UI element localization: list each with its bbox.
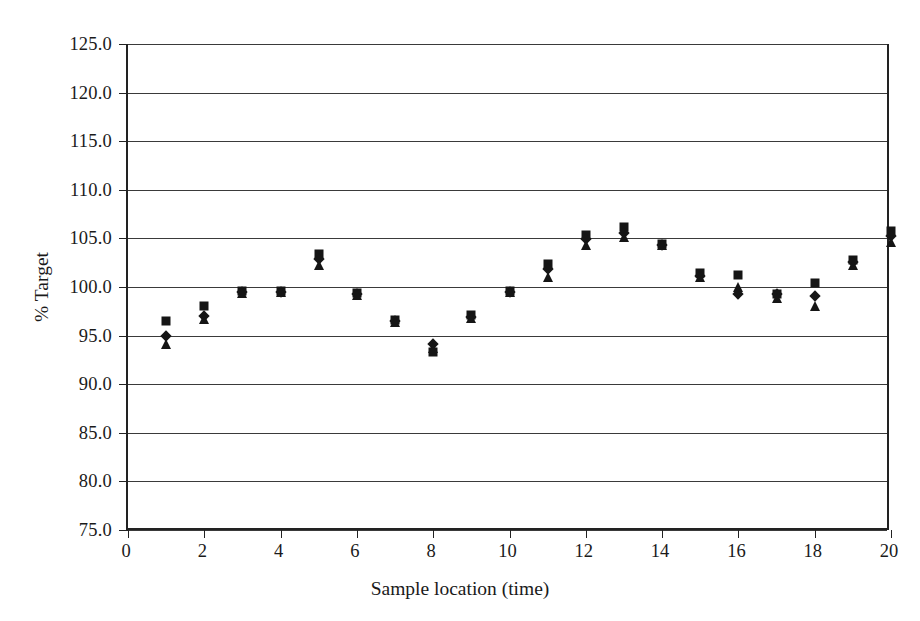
data-point-square xyxy=(162,317,171,326)
data-point-triangle xyxy=(276,287,286,297)
x-axis-tick-mark xyxy=(662,530,663,538)
data-point-diamond xyxy=(809,290,820,301)
data-point-triangle xyxy=(161,339,171,349)
x-axis-title: Sample location (time) xyxy=(0,578,920,600)
x-axis-tick-mark xyxy=(128,530,129,538)
gridline xyxy=(128,530,887,531)
x-axis-tick-mark xyxy=(510,530,511,538)
gridline xyxy=(128,238,887,239)
gridline xyxy=(128,481,887,482)
y-axis-tick-label: 75.0 xyxy=(79,521,112,540)
y-axis-tick-label: 85.0 xyxy=(79,424,112,443)
data-point-triangle xyxy=(657,240,667,250)
data-point-triangle xyxy=(810,301,820,311)
x-axis-tick-label: 8 xyxy=(427,542,436,561)
x-axis-tick-mark xyxy=(891,530,892,538)
gridline xyxy=(128,190,887,191)
gridline xyxy=(128,93,887,94)
data-point-square xyxy=(734,271,743,280)
scatter-chart-figure: % Target 75.080.085.090.095.0100.0105.01… xyxy=(0,0,920,621)
data-point-triangle xyxy=(886,237,896,247)
x-axis-tick-mark xyxy=(357,530,358,538)
x-axis-tick-label: 0 xyxy=(121,542,130,561)
plot-area xyxy=(126,44,889,530)
data-point-triangle xyxy=(466,313,476,323)
data-point-triangle xyxy=(199,314,209,324)
y-axis-tick-label: 90.0 xyxy=(79,375,112,394)
data-point-triangle xyxy=(314,260,324,270)
y-axis-tick-mark xyxy=(119,384,128,385)
y-axis-tick-label: 110.0 xyxy=(70,181,112,200)
data-point-square xyxy=(810,279,819,288)
data-point-triangle xyxy=(237,288,247,298)
data-point-triangle xyxy=(695,272,705,282)
y-axis-tick-mark xyxy=(119,44,128,45)
data-point-triangle xyxy=(772,293,782,303)
x-axis-tick-label: 2 xyxy=(198,542,207,561)
data-point-triangle xyxy=(428,343,438,353)
x-axis-tick-label: 6 xyxy=(350,542,359,561)
gridline xyxy=(128,433,887,434)
y-axis-tick-mark xyxy=(119,93,128,94)
y-axis-tick-mark xyxy=(119,287,128,288)
y-axis-tick-label: 120.0 xyxy=(69,83,112,102)
data-point-triangle xyxy=(390,317,400,327)
x-axis-tick-label: 14 xyxy=(651,542,670,561)
data-point-triangle xyxy=(619,232,629,242)
data-point-triangle xyxy=(543,272,553,282)
data-point-triangle xyxy=(848,260,858,270)
y-axis-title: % Target xyxy=(31,252,53,322)
data-point-triangle xyxy=(733,282,743,292)
y-axis-tick-mark xyxy=(119,433,128,434)
data-point-triangle xyxy=(581,240,591,250)
x-axis-tick-label: 4 xyxy=(274,542,283,561)
gridline xyxy=(128,141,887,142)
y-axis-tick-label: 100.0 xyxy=(69,278,112,297)
x-axis-tick-label: 12 xyxy=(575,542,594,561)
data-point-square xyxy=(200,302,209,311)
y-axis-tick-mark xyxy=(119,336,128,337)
y-axis-tick-mark xyxy=(119,141,128,142)
y-axis-tick-label: 80.0 xyxy=(79,472,112,491)
y-axis-tick-mark xyxy=(119,530,128,531)
x-axis-tick-label: 10 xyxy=(498,542,517,561)
y-axis-tick-label: 95.0 xyxy=(79,326,112,345)
x-axis-tick-mark xyxy=(433,530,434,538)
x-axis-tick-mark xyxy=(815,530,816,538)
x-axis-tick-label: 20 xyxy=(880,542,899,561)
x-axis-tick-label: 16 xyxy=(727,542,746,561)
y-axis-tick-mark xyxy=(119,190,128,191)
x-axis-tick-mark xyxy=(281,530,282,538)
y-axis-tick-label: 105.0 xyxy=(69,229,112,248)
x-axis-tick-mark xyxy=(738,530,739,538)
x-axis-tick-label: 18 xyxy=(803,542,822,561)
gridline xyxy=(128,336,887,337)
gridline xyxy=(128,384,887,385)
gridline xyxy=(128,44,887,45)
data-point-triangle xyxy=(505,287,515,297)
y-axis-tick-label: 125.0 xyxy=(69,35,112,54)
x-axis-tick-mark xyxy=(204,530,205,538)
x-axis-tick-mark xyxy=(586,530,587,538)
y-axis-tick-mark xyxy=(119,238,128,239)
data-point-triangle xyxy=(352,290,362,300)
y-axis-tick-label: 115.0 xyxy=(70,132,112,151)
y-axis-tick-mark xyxy=(119,481,128,482)
